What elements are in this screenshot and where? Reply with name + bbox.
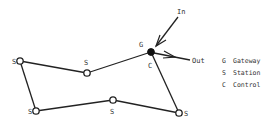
edge-s3-s4 — [113, 100, 179, 113]
edge-g-s3 — [151, 52, 179, 113]
station-node-icon — [33, 108, 39, 114]
node-label-s4: S — [110, 108, 114, 116]
in-label: In — [177, 8, 185, 16]
legend-key-gateway: G — [222, 57, 226, 65]
legend-key-station: S — [222, 69, 226, 77]
out-label: Out — [192, 57, 205, 65]
ring-network-diagram: In Out S S G C S S S G Gateway S Station… — [0, 0, 273, 126]
node-label-s1: S — [12, 58, 16, 66]
legend: G Gateway S Station C Control — [222, 57, 260, 89]
node-label-s2: S — [84, 59, 88, 67]
legend-text-control: Control — [233, 81, 260, 89]
legend-text-station: Station — [233, 69, 260, 77]
edge-s5-s1 — [20, 61, 36, 111]
station-node-icon — [176, 110, 182, 116]
edge-s2-g — [87, 52, 151, 73]
edge-s4-s5 — [36, 100, 113, 111]
station-node-icon — [17, 58, 23, 64]
node-label-gateway: G — [139, 41, 143, 49]
station-node-icon — [84, 70, 90, 76]
gateway-node-icon — [148, 49, 155, 56]
ring-edges — [20, 52, 179, 113]
legend-text-gateway: Gateway — [233, 57, 260, 65]
node-label-s3: S — [184, 110, 188, 118]
in-arrow — [156, 17, 178, 46]
station-node-icon — [110, 97, 116, 103]
node-label-s5: S — [28, 108, 32, 116]
edge-s1-s2 — [20, 61, 87, 73]
out-arrow — [154, 51, 190, 60]
node-label-control: C — [148, 62, 152, 70]
nodes — [17, 49, 182, 117]
legend-key-control: C — [222, 81, 226, 89]
